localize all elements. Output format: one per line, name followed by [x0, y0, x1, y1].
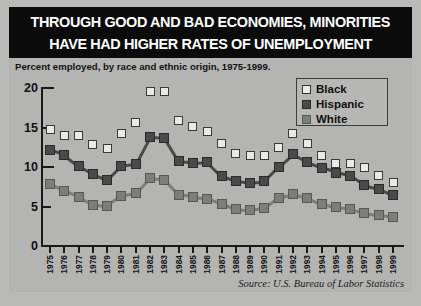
x-tick-label-1999: 1999: [388, 255, 398, 274]
legend-item-white: White: [302, 112, 387, 126]
x-tick-1976: [63, 247, 65, 253]
data-point: [345, 171, 355, 181]
x-tick-1992: [292, 247, 294, 253]
y-tick-label-15: 15: [9, 121, 38, 135]
data-point: [260, 151, 269, 160]
data-point: [88, 140, 97, 149]
data-point: [202, 157, 212, 167]
x-tick-label-1997: 1997: [359, 255, 369, 274]
x-tick-1989: [249, 247, 251, 253]
data-point: [145, 132, 155, 142]
x-tick-label-1990: 1990: [259, 255, 269, 274]
data-point: [374, 171, 383, 180]
x-tick-label-1987: 1987: [217, 255, 227, 274]
x-tick-label-1979: 1979: [102, 255, 112, 274]
data-point: [174, 190, 184, 200]
data-point: [116, 191, 126, 201]
data-point: [246, 151, 255, 160]
data-point: [331, 168, 341, 178]
legend-item-hispanic: Hispanic: [302, 97, 387, 111]
x-tick-1998: [378, 247, 380, 253]
x-tick-1995: [335, 247, 337, 253]
legend-label-white: White: [316, 114, 347, 125]
x-tick-1988: [235, 247, 237, 253]
x-tick-label-1980: 1980: [116, 255, 126, 274]
legend-label-black: Black: [316, 84, 347, 95]
data-point: [188, 192, 198, 202]
x-tick-1982: [149, 247, 151, 253]
data-point: [259, 203, 269, 213]
chart-subtitle: Percent employed, by race and ethnic ori…: [15, 61, 270, 72]
x-tick-1996: [349, 247, 351, 253]
data-point: [231, 176, 241, 186]
x-tick-1978: [92, 247, 94, 253]
data-point: [359, 208, 369, 218]
legend-swatch-hispanic-icon: [302, 100, 311, 109]
source-note: Source: U.S. Bureau of Labor Statistics: [238, 278, 404, 289]
data-point: [217, 199, 227, 209]
data-point: [59, 150, 69, 160]
data-point: [346, 159, 355, 168]
data-point: [317, 163, 327, 173]
data-point: [74, 131, 83, 140]
legend-item-black: Black: [302, 82, 387, 96]
x-tick-label-1978: 1978: [88, 255, 98, 274]
title-banner: THROUGH GOOD AND BAD ECONOMIES, MINORITI…: [9, 7, 412, 58]
x-tick-1986: [206, 247, 208, 253]
data-point: [102, 201, 112, 211]
data-point: [302, 157, 312, 167]
x-tick-1985: [192, 247, 194, 253]
data-point: [274, 162, 284, 172]
x-tick-label-1988: 1988: [231, 255, 241, 274]
x-tick-label-1993: 1993: [302, 255, 312, 274]
y-tick-label-20: 20: [9, 81, 38, 95]
x-tick-label-1991: 1991: [274, 255, 284, 274]
data-point: [288, 129, 297, 138]
x-tick-label-1989: 1989: [245, 255, 255, 274]
data-point: [174, 116, 183, 125]
data-point: [74, 192, 84, 202]
data-point: [46, 125, 55, 134]
data-point: [331, 202, 341, 212]
data-point: [102, 175, 112, 185]
data-point: [288, 149, 298, 159]
x-tick-label-1975: 1975: [45, 255, 55, 274]
x-tick-label-1976: 1976: [59, 255, 69, 274]
x-tick-1993: [306, 247, 308, 253]
data-point: [231, 204, 241, 214]
y-tick-label-0: 0: [9, 239, 38, 253]
legend-label-hispanic: Hispanic: [316, 99, 364, 110]
data-point: [160, 87, 169, 96]
x-tick-label-1998: 1998: [374, 255, 384, 274]
x-tick-label-1984: 1984: [174, 255, 184, 274]
data-point: [188, 122, 197, 131]
title-line-2: HAVE HAD HIGHER RATES OF UNEMPLOYMENT: [49, 33, 372, 55]
data-point: [103, 144, 112, 153]
x-tick-1984: [178, 247, 180, 253]
data-point: [274, 193, 284, 203]
data-point: [174, 156, 184, 166]
data-point: [345, 204, 355, 214]
x-tick-1981: [135, 247, 137, 253]
data-point: [317, 151, 326, 160]
data-point: [331, 159, 340, 168]
data-point: [389, 178, 398, 187]
chart-panel: Percent employed, by race and ethnic ori…: [9, 58, 412, 292]
data-point: [259, 176, 269, 186]
data-point: [88, 200, 98, 210]
y-tick-label-5: 5: [9, 200, 38, 214]
data-point: [317, 199, 327, 209]
data-point: [388, 212, 398, 222]
x-tick-1999: [392, 247, 394, 253]
data-point: [360, 163, 369, 172]
x-tick-1987: [221, 247, 223, 253]
data-point: [217, 171, 227, 181]
x-tick-1990: [263, 247, 265, 253]
data-point: [60, 131, 69, 140]
data-point: [202, 194, 212, 204]
data-point: [145, 173, 155, 183]
data-point: [59, 186, 69, 196]
data-point: [374, 210, 384, 220]
data-point: [359, 180, 369, 190]
data-point: [74, 161, 84, 171]
